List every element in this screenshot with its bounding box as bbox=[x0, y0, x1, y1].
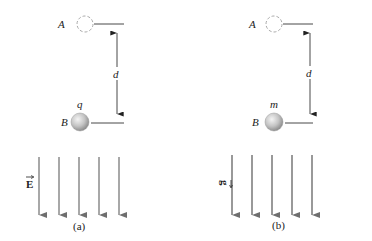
electric-field-arrows bbox=[39, 157, 119, 215]
distance-label: d bbox=[306, 67, 312, 79]
gravitational-field-arrows bbox=[232, 155, 312, 215]
field-symbol: g bbox=[219, 180, 231, 186]
initial-position-circle bbox=[77, 16, 93, 32]
charged-particle-sphere bbox=[71, 113, 89, 131]
electric-field-label: E bbox=[26, 176, 34, 191]
panel-a: A d q B E (a) bbox=[26, 16, 124, 233]
panel-b: A d m B g (b) bbox=[219, 16, 317, 232]
distance-label: d bbox=[113, 68, 119, 80]
diagram-canvas: A d q B E (a) A bbox=[0, 0, 372, 241]
mass-label: m bbox=[270, 98, 278, 110]
gravitational-field-label: g bbox=[219, 180, 233, 188]
point-b-label: B bbox=[252, 116, 259, 128]
point-a-label: A bbox=[57, 18, 65, 30]
field-symbol: E bbox=[26, 178, 33, 190]
panel-caption: (a) bbox=[73, 220, 86, 233]
mass-particle-sphere bbox=[265, 113, 283, 131]
panel-caption: (b) bbox=[272, 219, 285, 232]
charge-label: q bbox=[77, 98, 83, 110]
point-a-label: A bbox=[248, 18, 256, 30]
point-b-label: B bbox=[61, 116, 68, 128]
initial-position-circle bbox=[266, 16, 282, 32]
